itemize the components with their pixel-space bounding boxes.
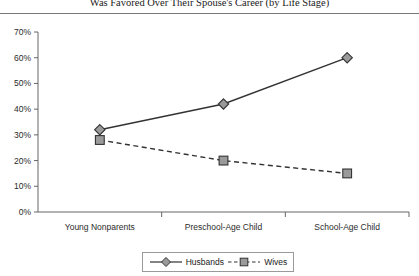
square-marker-icon bbox=[227, 256, 261, 268]
series-line-husbands bbox=[100, 58, 347, 130]
x-axis: Young NonparentsPreschool-Age ChildSchoo… bbox=[38, 212, 409, 232]
y-tick-label: 10% bbox=[14, 181, 31, 191]
data-point-square bbox=[343, 169, 352, 178]
legend-item-husbands[interactable]: Husbands bbox=[149, 256, 224, 268]
series-layer bbox=[95, 53, 353, 178]
y-tick-label: 50% bbox=[14, 78, 31, 88]
data-point-square bbox=[95, 136, 104, 145]
y-tick-label: 20% bbox=[14, 156, 31, 166]
y-axis: 0%10%20%30%40%50%60%70% bbox=[14, 27, 38, 217]
data-point-diamond bbox=[218, 99, 228, 109]
x-category-label: School-Age Child bbox=[314, 222, 380, 232]
data-point-diamond bbox=[342, 53, 352, 63]
y-tick-label: 30% bbox=[14, 130, 31, 140]
data-point-square bbox=[219, 156, 228, 165]
y-tick-label: 0% bbox=[19, 207, 32, 217]
y-tick-label: 40% bbox=[14, 104, 31, 114]
chart-legend: Husbands Wives bbox=[142, 252, 294, 272]
legend-item-wives[interactable]: Wives bbox=[227, 256, 287, 268]
legend-label-wives: Wives bbox=[264, 257, 287, 267]
legend-label-husbands: Husbands bbox=[186, 257, 224, 267]
x-category-label: Preschool-Age Child bbox=[185, 222, 263, 232]
chart-plot-svg: 0%10%20%30%40%50%60%70% Young Nonparents… bbox=[0, 0, 419, 276]
data-point-diamond bbox=[95, 125, 105, 135]
diamond-marker-icon bbox=[149, 256, 183, 268]
y-tick-label: 70% bbox=[14, 27, 31, 37]
x-category-label: Young Nonparents bbox=[65, 222, 135, 232]
line-chart: 0%10%20%30%40%50%60%70% Young Nonparents… bbox=[0, 0, 419, 276]
y-tick-label: 60% bbox=[14, 53, 31, 63]
